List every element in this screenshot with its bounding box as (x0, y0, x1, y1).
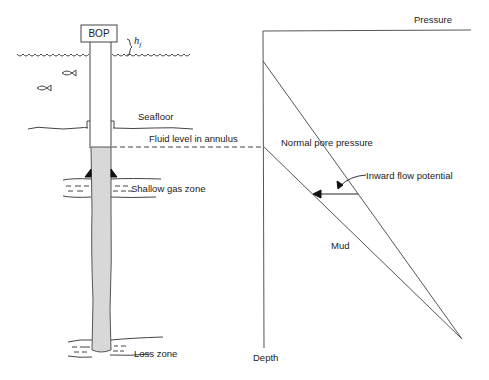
diagram-canvas (0, 0, 489, 380)
pressure-axis-label: Pressure (414, 15, 452, 25)
callout-arrowhead-icon (337, 181, 343, 189)
shallow-gas-zone-label: Shallow gas zone (131, 184, 205, 194)
inward-flow-label: Inward flow potential (366, 171, 453, 181)
normal-pore-pressure-label: Normal pore pressure (281, 138, 373, 148)
pressure-axis (263, 30, 471, 31)
mud-label: Mud (331, 241, 349, 251)
gas-influx-arrow-right-icon (111, 169, 117, 177)
seafloor-label: Seafloor (138, 112, 173, 122)
fish-icon (37, 85, 51, 91)
flow-callout-leader (340, 175, 366, 186)
normal-pore-pressure-line (263, 61, 462, 339)
sea-surface-right (112, 54, 190, 56)
sea-surface-left (17, 54, 89, 56)
loss-zone-label: Loss zone (134, 349, 177, 359)
bop-label: BOP (81, 25, 117, 42)
pressure-depth-chart (263, 30, 471, 348)
depth-axis (263, 31, 264, 348)
fluid-level-label: Fluid level in annulus (149, 134, 238, 144)
gas-influx-arrow-left-icon (85, 169, 91, 177)
depth-axis-label: Depth (253, 353, 278, 363)
fish-icon (62, 70, 76, 76)
air-gap-subscript: f (139, 41, 141, 49)
air-gap-brace-icon (127, 39, 132, 55)
arrowhead-icon (313, 190, 321, 198)
fluid-column (91, 147, 111, 352)
air-gap-label: hf (134, 36, 141, 49)
